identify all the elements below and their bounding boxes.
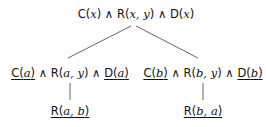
right-d-pre: D( xyxy=(237,66,250,80)
left-child-post: ) xyxy=(85,104,90,118)
right-and-1: ∧ xyxy=(168,66,184,80)
right-r-pre: R( xyxy=(184,66,196,80)
right-c-atom: C(b) xyxy=(143,66,167,80)
left-and-2: ∧ xyxy=(88,66,104,80)
root-r-var: x, y xyxy=(129,7,149,21)
left-c-atom: C(a) xyxy=(11,66,35,80)
right-r-atom: R(b, y) xyxy=(184,66,222,80)
root-and-2: ∧ xyxy=(154,7,170,21)
root-d-post: ) xyxy=(190,7,195,21)
right-c-var: b xyxy=(156,66,163,80)
edge-root-left xyxy=(68,26,131,58)
root-c-pre: C( xyxy=(78,7,91,21)
root-r-pre: R( xyxy=(117,7,129,21)
root-and-1: ∧ xyxy=(101,7,117,21)
root-d-pre: D( xyxy=(170,7,183,21)
left-child-pre: R( xyxy=(51,104,63,118)
left-child-var: a, b xyxy=(63,104,85,118)
left-and-1: ∧ xyxy=(35,66,51,80)
right-d-atom: D(b) xyxy=(237,66,262,80)
right-child-pre: R( xyxy=(184,104,196,118)
edge-root-right xyxy=(136,26,198,58)
left-d-atom: D(a) xyxy=(104,66,129,80)
right-d-post: ) xyxy=(258,66,263,80)
left-c-pre: C( xyxy=(11,66,24,80)
left-node: C(a) ∧ R(a, y) ∧ D(a) xyxy=(11,66,129,80)
right-child-post: ) xyxy=(218,104,223,118)
right-child-var: b, a xyxy=(196,104,218,118)
left-r-var: a, y xyxy=(63,66,84,80)
left-d-post: ) xyxy=(124,66,129,80)
right-r-var: b, y xyxy=(196,66,217,80)
left-r-atom: R(a, y) xyxy=(51,66,89,80)
right-node: C(b) ∧ R(b, y) ∧ D(b) xyxy=(143,66,262,80)
right-child-atom: R(b, a) xyxy=(184,104,223,118)
root-node: C(x) ∧ R(x, y) ∧ D(x) xyxy=(78,7,195,21)
right-c-pre: C( xyxy=(143,66,156,80)
right-d-var: b xyxy=(251,66,258,80)
left-r-pre: R( xyxy=(51,66,63,80)
left-child-atom: R(a, b) xyxy=(51,104,90,118)
left-d-pre: D( xyxy=(104,66,117,80)
right-child-node: R(b, a) xyxy=(184,104,223,118)
left-child-node: R(a, b) xyxy=(51,104,90,118)
right-and-2: ∧ xyxy=(222,66,238,80)
